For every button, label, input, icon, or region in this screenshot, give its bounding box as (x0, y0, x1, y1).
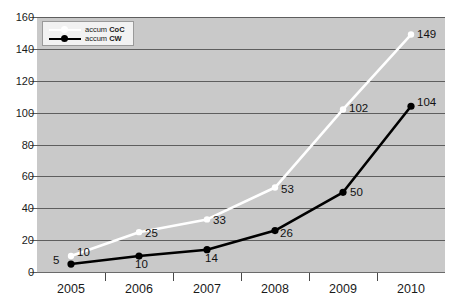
data-point-accum-coc-2010 (408, 31, 414, 37)
data-point-accum-coc-2005 (68, 253, 74, 259)
data-point-accum-coc-2008 (272, 184, 278, 190)
data-point-accum-coc-2009 (340, 106, 346, 112)
legend-label-cw: accum CW (85, 33, 122, 44)
data-label-accum-coc-2006: 25 (145, 228, 158, 240)
data-point-accum-cw-2009 (339, 189, 346, 196)
data-label-accum-cw-2005: 5 (53, 255, 59, 267)
data-point-accum-coc-2007 (204, 216, 210, 222)
legend-marker-cw-icon (61, 35, 68, 42)
data-label-accum-coc-2008: 53 (281, 184, 294, 196)
series-line-accum-cw (71, 106, 411, 264)
data-label-accum-coc-2005: 10 (77, 247, 90, 259)
data-label-accum-cw-2010: 104 (417, 97, 436, 109)
data-label-accum-cw-2007: 14 (205, 253, 218, 265)
data-point-accum-coc-2006 (136, 229, 142, 235)
data-label-accum-coc-2009: 102 (349, 103, 368, 115)
data-point-accum-cw-2005 (67, 260, 74, 267)
data-point-accum-cw-2010 (407, 103, 414, 110)
data-label-accum-cw-2009: 50 (350, 187, 363, 199)
chart-legend: accum CoC accum CW (42, 21, 134, 46)
data-label-accum-cw-2006: 10 (135, 259, 148, 271)
line-chart: 020406080100120140160 200520062007200820… (0, 0, 465, 306)
data-label-accum-coc-2007: 33 (213, 215, 226, 227)
data-label-accum-cw-2008: 26 (280, 228, 293, 240)
data-point-accum-cw-2008 (271, 227, 278, 234)
data-label-accum-coc-2010: 149 (417, 29, 436, 41)
legend-marker-coc-icon (61, 26, 68, 33)
legend-entry-cw: accum CW (43, 33, 133, 44)
series-line-accum-coc (71, 35, 411, 257)
